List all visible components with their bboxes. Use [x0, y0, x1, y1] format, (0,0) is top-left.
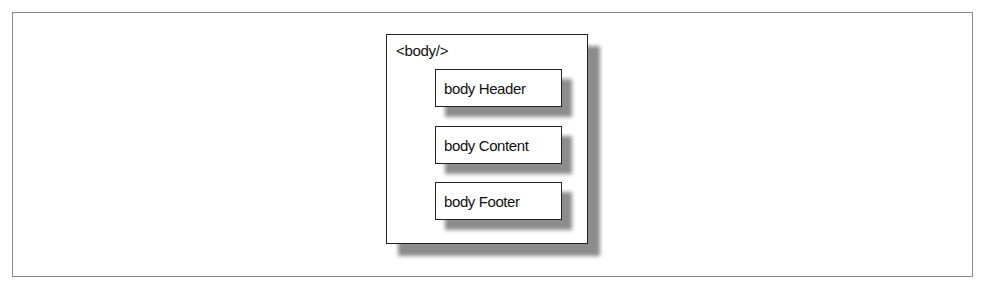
body-container-label: <body/>: [396, 42, 448, 59]
body-footer-box: body Footer: [435, 182, 562, 220]
body-content-box: body Content: [435, 126, 562, 164]
body-header-box: body Header: [435, 69, 562, 107]
